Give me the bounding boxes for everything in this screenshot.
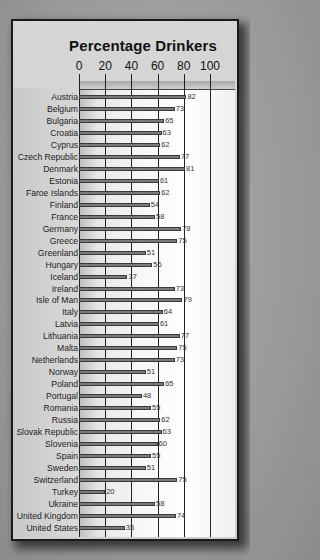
bar [79, 143, 160, 147]
bar [79, 322, 159, 326]
category-label: Netherlands [32, 355, 78, 365]
bar-value-label: 73 [176, 355, 184, 365]
bar-value-label: 54 [151, 200, 159, 210]
bar [79, 107, 175, 111]
bar [79, 382, 164, 386]
bar [79, 131, 162, 135]
bar-value-label: 81 [186, 164, 194, 174]
bar [79, 370, 146, 374]
category-label: Spain [56, 451, 78, 461]
bar-value-label: 48 [143, 391, 151, 401]
bar-value-label: 20 [106, 487, 114, 497]
category-label: Switzerland [34, 475, 78, 485]
category-label: Turkey [52, 487, 78, 497]
bar-value-label: 63 [163, 427, 171, 437]
bar-value-label: 75 [178, 236, 186, 246]
category-label: Belgium [47, 104, 78, 114]
category-label: France [51, 212, 78, 222]
bar [79, 191, 160, 195]
bar [79, 251, 146, 255]
bar-value-label: 77 [181, 331, 189, 341]
category-label: Austria [51, 92, 78, 102]
bar-value-label: 77 [181, 152, 189, 162]
category-label: Iceland [50, 272, 78, 282]
x-tick-label: 60 [151, 59, 164, 73]
category-label: Greenland [38, 248, 78, 258]
bar-value-label: 65 [165, 116, 173, 126]
category-label: Latvia [55, 319, 78, 329]
x-tick-label: 40 [125, 59, 138, 73]
bar-value-label: 75 [178, 343, 186, 353]
category-label: Croatia [50, 128, 78, 138]
category-label: United States [26, 523, 78, 533]
bar-value-label: 74 [177, 511, 185, 521]
bar-value-label: 63 [163, 128, 171, 138]
bar [79, 346, 177, 350]
category-label: Lithuania [43, 331, 78, 341]
category-label: Ireland [52, 284, 78, 294]
x-tick-label: 100 [200, 59, 220, 73]
bar [79, 430, 162, 434]
bar-value-label: 79 [183, 295, 191, 305]
category-label: Ukraine [48, 499, 78, 509]
category-label: Hungary [46, 260, 78, 270]
category-label: Cyprus [51, 140, 78, 150]
bar [79, 454, 151, 458]
bar-value-label: 62 [161, 415, 169, 425]
category-label: Faroe Islands [26, 188, 78, 198]
bar-value-label: 78 [182, 224, 190, 234]
bar-value-label: 61 [160, 319, 168, 329]
bar-value-label: 65 [165, 379, 173, 389]
bar-value-label: 75 [178, 475, 186, 485]
bar [79, 514, 176, 518]
chart-title: Percentage Drinkers [0, 37, 250, 54]
bar-value-label: 51 [147, 463, 155, 473]
bar [79, 227, 181, 231]
bar-value-label: 61 [160, 176, 168, 186]
bar-value-label: 60 [159, 439, 167, 449]
x-tick-label: 80 [177, 59, 190, 73]
category-label: Malta [57, 343, 78, 353]
category-label: Russia [52, 415, 78, 425]
bar-value-label: 35 [126, 523, 134, 533]
bar [79, 298, 182, 302]
category-label: Germany [43, 224, 78, 234]
category-label: Norway [49, 367, 78, 377]
bar-value-label: 73 [176, 104, 184, 114]
bar [79, 203, 150, 207]
category-label: Czech Republic [18, 152, 78, 162]
category-label: Slovak Republic [16, 427, 78, 437]
bar [79, 263, 152, 267]
bar [79, 526, 125, 530]
category-label: Slovenia [45, 439, 78, 449]
bar [79, 179, 159, 183]
category-label: Finland [50, 200, 78, 210]
bar [79, 287, 175, 291]
bar-value-label: 62 [161, 188, 169, 198]
bar-value-label: 82 [187, 92, 195, 102]
bar [79, 490, 105, 494]
category-label: Bulgaria [46, 116, 78, 126]
bar-value-label: 55 [152, 403, 160, 413]
bar [79, 406, 151, 410]
bar [79, 275, 127, 279]
bar [79, 394, 142, 398]
category-label: Estonia [49, 176, 78, 186]
bar [79, 95, 186, 99]
bar-value-label: 64 [164, 307, 172, 317]
category-label: Isle of Man [36, 295, 78, 305]
bar-value-label: 62 [161, 140, 169, 150]
bar [79, 358, 175, 362]
bar-value-label: 58 [156, 499, 164, 509]
category-label: Poland [51, 379, 78, 389]
bar [79, 442, 158, 446]
bar [79, 167, 185, 171]
gridline [210, 74, 211, 537]
bar-value-label: 58 [156, 212, 164, 222]
gridline [184, 74, 185, 537]
bar-value-label: 37 [128, 272, 136, 282]
category-label: Romania [44, 403, 78, 413]
bar [79, 478, 177, 482]
category-label: United Kingdom [17, 511, 78, 521]
bar [79, 239, 177, 243]
